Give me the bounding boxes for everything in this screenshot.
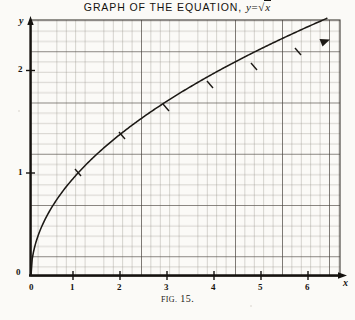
- paper-speck: [18, 110, 20, 112]
- x-tick-label-1: 1: [70, 282, 75, 292]
- x-tick-label-2: 2: [117, 282, 122, 292]
- x-tick-label-4: 4: [211, 282, 216, 292]
- grid-background: [31, 20, 340, 276]
- y-tick-label-1: 1: [18, 167, 23, 177]
- x-tick-label-5: 5: [258, 282, 263, 292]
- x-axis-variable-label: x: [343, 277, 348, 288]
- figure-caption-number: 15.: [180, 293, 194, 304]
- x-tick-label-0: 0: [29, 282, 34, 292]
- origin-label-axis: 0: [16, 267, 21, 277]
- x-tick-label-3: 3: [164, 282, 169, 292]
- y-axis-variable-label: y: [19, 15, 23, 26]
- y-tick-label-2: 2: [18, 64, 23, 74]
- figure-caption-label: FIG.: [161, 295, 178, 304]
- x-tick-label-6: 6: [305, 282, 310, 292]
- figure-graph-of-equation: GRAPH OF THE EQUATION, y=√x: [0, 0, 355, 320]
- plot-area: [0, 0, 355, 320]
- figure-caption: FIG. 15.: [0, 293, 355, 304]
- paper-speck: [250, 305, 252, 307]
